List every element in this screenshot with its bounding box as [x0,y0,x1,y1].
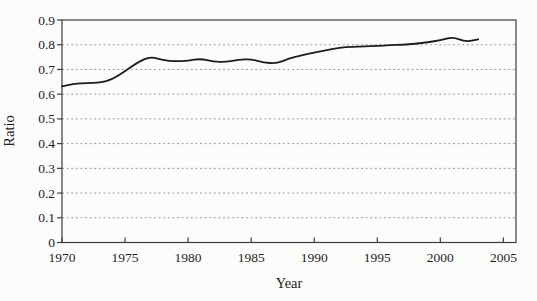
y-tick-label: 0.5 [38,111,55,126]
ratio-vs-year-chart: 00.10.20.30.40.50.60.70.80.9197019751980… [0,0,537,301]
y-tick-label: 0.6 [38,87,55,102]
x-axis-title: Year [276,275,303,291]
y-tick-label: 0.2 [38,186,55,201]
x-tick-label: 1990 [301,250,328,265]
y-axis-title: Ratio [1,115,17,146]
y-tick-label: 0 [48,235,55,250]
y-tick-label: 0.1 [38,210,55,225]
y-tick-label: 0.3 [38,161,55,176]
x-tick-label: 1970 [49,250,76,265]
axes [57,20,516,243]
x-tick-label: 2000 [427,250,454,265]
x-tick-label: 1985 [238,250,265,265]
x-tick-label: 1995 [364,250,391,265]
y-tick-label: 0.8 [38,37,55,52]
y-tick-label: 0.9 [38,13,55,28]
plot-border [62,20,516,243]
tick-labels: 00.10.20.30.40.50.60.70.80.9197019751980… [38,13,517,266]
line-chart-canvas: 00.10.20.30.40.50.60.70.80.9197019751980… [0,0,537,301]
x-tick-label: 1980 [175,250,202,265]
y-tick-label: 0.4 [38,136,55,151]
x-tick-label: 2005 [490,250,517,265]
x-tick-label: 1975 [112,250,139,265]
y-tick-label: 0.7 [38,62,55,77]
gridlines [62,45,516,218]
